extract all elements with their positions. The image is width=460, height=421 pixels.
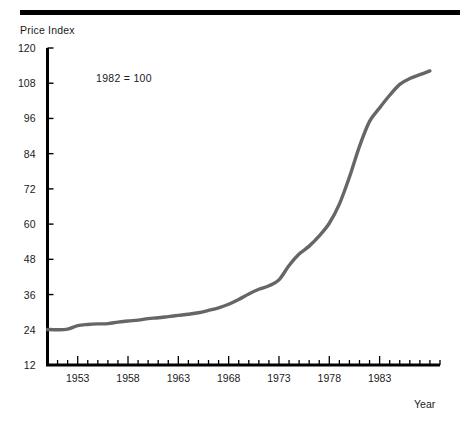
x-axis-tick-labels: 1953195819631968197319781983: [66, 372, 391, 384]
y-axis-tick-label: 84: [24, 148, 36, 160]
x-axis-tick-label: 1958: [116, 372, 140, 384]
y-axis-tick-label: 108: [18, 77, 36, 89]
y-axis-tick-label: 12: [24, 359, 36, 371]
line-chart-svg: 1224364860728496108120 19531958196319681…: [0, 0, 460, 421]
x-axis-tick-label: 1973: [267, 372, 291, 384]
x-axis-tick-label: 1963: [167, 372, 191, 384]
y-axis-tick-label: 48: [24, 253, 36, 265]
y-axis-tick-label: 60: [24, 218, 36, 230]
y-axis-tick-label: 36: [24, 289, 36, 301]
x-axis-tick-label: 1968: [217, 372, 241, 384]
y-axis-tick-label: 120: [18, 42, 36, 54]
price-index-data-line: [48, 71, 430, 330]
y-axis-tick-labels: 1224364860728496108120: [18, 42, 36, 371]
y-axis-tick-label: 72: [24, 183, 36, 195]
x-axis-tick-label: 1953: [66, 372, 90, 384]
y-axis-tick-label: 24: [24, 324, 36, 336]
chart-page: Price Index 1982 = 100 Year 122436486072…: [0, 0, 460, 421]
x-axis-tick-label: 1978: [318, 372, 342, 384]
x-axis-tick-label: 1983: [368, 372, 392, 384]
y-axis-tick-label: 96: [24, 112, 36, 124]
